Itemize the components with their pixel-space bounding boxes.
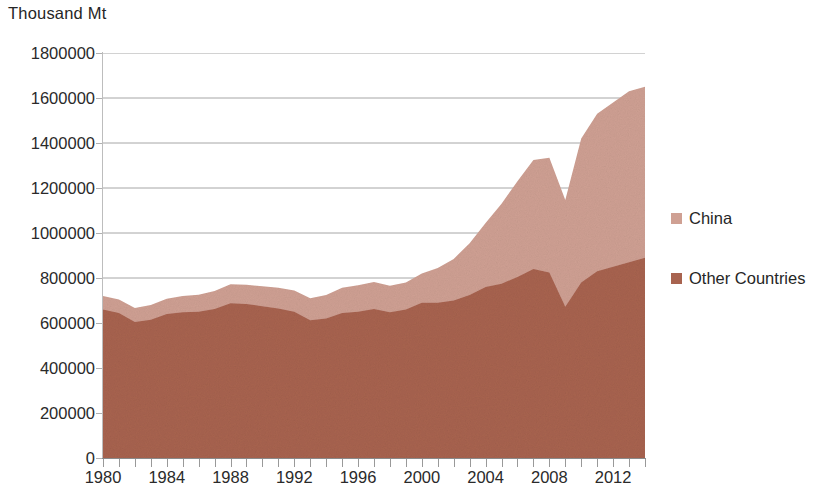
x-axis-tick — [310, 459, 311, 467]
x-axis-tick — [119, 459, 120, 467]
x-axis-tick — [549, 459, 550, 467]
y-axis-tick-label: 1800000 — [0, 44, 95, 63]
x-axis-tick — [199, 459, 200, 467]
y-axis-tick-label: 600000 — [0, 314, 95, 333]
x-axis-tick — [326, 459, 327, 467]
x-axis-tick — [517, 459, 518, 467]
x-axis-tick — [167, 459, 168, 467]
y-axis-tick-label: 200000 — [0, 404, 95, 423]
chart-container: Thousand Mt 0200000400000600000800000100… — [0, 0, 833, 503]
y-axis-tick-label: 800000 — [0, 269, 95, 288]
x-axis-tick — [454, 459, 455, 467]
plot-area — [103, 53, 645, 458]
chart-legend: China Other Countries — [671, 207, 833, 327]
x-axis-tick — [278, 459, 279, 467]
y-axis-tick-label: 1600000 — [0, 89, 95, 108]
x-axis-tick — [151, 459, 152, 467]
x-axis-tick-label: 2004 — [467, 468, 504, 487]
x-axis-tick — [422, 459, 423, 467]
x-axis-tick — [629, 459, 630, 467]
x-axis-tick — [231, 459, 232, 467]
y-axis-tick-label: 0 — [0, 449, 95, 468]
x-axis-tick-label: 1992 — [276, 468, 313, 487]
x-axis-tick — [390, 459, 391, 467]
x-axis-tick — [262, 459, 263, 467]
x-axis-tick — [486, 459, 487, 467]
stacked-area-plot — [103, 53, 645, 458]
x-axis-tick-label: 2000 — [403, 468, 440, 487]
x-axis-tick — [597, 459, 598, 467]
y-axis-tick-label: 1000000 — [0, 224, 95, 243]
x-axis-tick — [183, 459, 184, 467]
x-axis-tick — [533, 459, 534, 467]
x-axis-tick-label: 1984 — [148, 468, 185, 487]
x-axis-tick — [470, 459, 471, 467]
x-axis-tick — [565, 459, 566, 467]
x-axis-tick — [502, 459, 503, 467]
x-axis-tick-label: 1980 — [85, 468, 122, 487]
legend-swatch-china — [671, 213, 682, 224]
y-axis-tick-label: 1400000 — [0, 134, 95, 153]
x-axis-tick-label: 2012 — [595, 468, 632, 487]
y-axis-labels: 0200000400000600000800000100000012000001… — [0, 0, 95, 503]
x-axis-tick — [645, 459, 646, 467]
legend-entry-china: China — [671, 207, 833, 229]
x-axis-tick-label: 1996 — [340, 468, 377, 487]
x-axis-tick — [135, 459, 136, 467]
x-axis-tick — [581, 459, 582, 467]
x-axis-tick — [406, 459, 407, 467]
legend-entry-other-countries: Other Countries — [671, 267, 833, 289]
y-axis-tick-label: 1200000 — [0, 179, 95, 198]
x-axis-tick — [358, 459, 359, 467]
x-axis-tick — [438, 459, 439, 467]
x-axis-tick — [613, 459, 614, 467]
x-axis-tick-label: 1988 — [212, 468, 249, 487]
x-axis-tick — [374, 459, 375, 467]
x-axis-tick — [103, 459, 104, 467]
legend-label-china: China — [689, 209, 732, 228]
x-axis-tick — [215, 459, 216, 467]
x-axis-tick — [342, 459, 343, 467]
x-axis-tick — [294, 459, 295, 467]
legend-label-other-countries: Other Countries — [689, 269, 805, 288]
y-axis-tick-label: 400000 — [0, 359, 95, 378]
legend-swatch-other-countries — [671, 273, 682, 284]
x-axis-tick-label: 2008 — [531, 468, 568, 487]
x-axis-tick — [246, 459, 247, 467]
